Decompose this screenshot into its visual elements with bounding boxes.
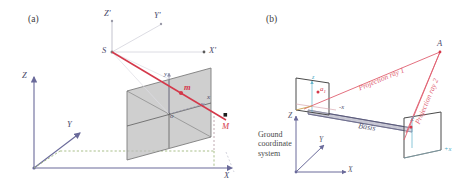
- object-point-label-a: A: [437, 39, 442, 48]
- panel-a-tag: (a): [28, 15, 39, 25]
- panel-b-tag: (b): [266, 15, 277, 25]
- ground-label-line-3: system: [258, 149, 292, 158]
- left-image-axis-x: -x: [339, 104, 344, 111]
- image-point-label-m: m: [184, 83, 191, 92]
- ground-axes-b: [295, 116, 346, 173]
- world-axis-label-x: X: [224, 171, 229, 180]
- figure-root: (a) Z' Y' X' S y x o m M Z Y X: [0, 0, 471, 189]
- left-image-axis-z: z: [312, 74, 314, 80]
- ground-axis-label-z: Z: [288, 112, 292, 120]
- ground-axis-label-y: Y: [319, 136, 323, 144]
- panel-b-graphics: [236, 0, 471, 189]
- ground-coordinate-system-label: Ground coordinate system: [258, 130, 292, 158]
- left-image-plane: [296, 78, 336, 115]
- panel-a-graphics: [0, 0, 236, 189]
- image-origin-label-o: o: [170, 113, 174, 120]
- left-image-point-a1: a1: [320, 86, 326, 94]
- world-axis-label-z: Z: [22, 71, 27, 80]
- ground-label-line-2: coordinate: [258, 139, 292, 148]
- ground-label-line-1: Ground: [258, 130, 292, 139]
- right-image-axis-x: +x: [444, 146, 451, 153]
- projection-center-label-s: S: [102, 46, 106, 55]
- world-axis-label-y: Y: [67, 120, 72, 129]
- object-point-label-m-upper: M: [222, 122, 229, 131]
- left-image-point-a1-sub: 1: [324, 89, 327, 94]
- ground-axis-label-x: X: [348, 166, 353, 174]
- right-image-axis-z: z: [412, 114, 414, 120]
- axis-label-z-prime: Z': [104, 9, 111, 18]
- image-axis-label-x: x: [207, 94, 210, 101]
- axis-label-x-prime: X': [209, 46, 216, 55]
- axis-label-y-prime: Y': [154, 11, 161, 20]
- image-axis-label-y: y: [164, 71, 167, 78]
